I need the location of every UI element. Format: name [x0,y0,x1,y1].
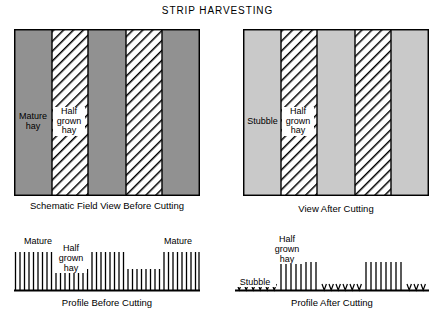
caption-field-after-cutting: View After Cutting [243,203,429,214]
label-profile-before-half-grown-line1: Half [55,243,87,253]
profile-after-cutting-graphic [235,248,429,296]
strip-stubble-2 [317,29,355,196]
strip-stubble-3 [391,29,429,196]
label-half-grown-hay-before: Half grown hay [53,107,85,136]
profile-before-cutting-graphic [14,248,200,296]
strip-mature-3 [162,29,200,196]
strip-half-grown-2 [126,29,162,196]
label-profile-after-half-grown-line1: Half [270,234,304,244]
strip-stubble-1 [243,29,281,196]
field-after-cutting-graphic [243,29,429,196]
strip-harvesting-figure: STRIP HARVESTING [0,0,435,326]
caption-profile-after-cutting: Profile After Cutting [235,297,429,308]
panel-field-after-cutting [243,29,429,196]
label-half-grown-before-line3: hay [54,126,84,136]
label-stubble-after: Stubble [244,117,281,127]
label-profile-before-mature-left: Mature [17,236,59,246]
strip-half-grown-4 [355,29,391,196]
label-mature-hay-before: Mature hay [16,112,50,131]
panel-profile-before-cutting [14,248,200,296]
label-profile-after-stubble: Stubble [234,277,276,287]
label-profile-after-half-grown-line3: hay [270,254,304,264]
strip-mature-2 [88,29,126,196]
label-half-grown-hay-after: Half grown hay [282,107,314,136]
label-half-grown-after-line3: hay [283,126,313,136]
label-profile-before-half-grown: Half grown hay [55,243,87,273]
label-profile-after-half-grown-line2: grown [270,244,304,254]
panel-profile-after-cutting [235,248,429,296]
label-profile-before-half-grown-line2: grown [55,253,87,263]
label-profile-before-half-grown-line3: hay [55,263,87,273]
label-mature-hay-line2: hay [16,122,50,132]
caption-field-before-cutting: Schematic Field View Before Cutting [14,200,200,211]
caption-profile-before-cutting: Profile Before Cutting [14,297,200,308]
label-profile-after-half-grown: Half grown hay [270,234,304,264]
label-profile-before-mature-right: Mature [157,236,199,246]
figure-title: STRIP HARVESTING [0,5,435,16]
